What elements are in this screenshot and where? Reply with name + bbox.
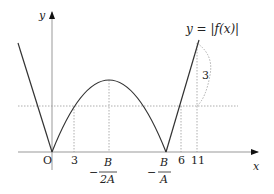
tick-3: 3: [71, 154, 78, 167]
curve-abs-f: [18, 40, 199, 152]
tick-vertex-den: 2A: [99, 173, 115, 186]
absolute-value-graph: y = |f(x)| x y O 3 − B 2A − B A 6 11 3: [0, 0, 274, 194]
tick-root-num: B: [159, 156, 168, 169]
tick-root-sign: −: [147, 166, 156, 179]
tick-root-den: A: [159, 173, 168, 186]
tick-6: 6: [178, 154, 185, 167]
tick-vertex-num: B: [103, 156, 112, 169]
curve-label: y = |f(x)|: [185, 22, 239, 36]
y-axis-label: y: [38, 9, 46, 22]
tick-11: 11: [191, 154, 205, 167]
origin-label: O: [43, 154, 52, 167]
gap-label: 3: [202, 69, 209, 82]
tick-vertex-sign: −: [89, 166, 98, 179]
x-axis-label: x: [253, 160, 260, 173]
